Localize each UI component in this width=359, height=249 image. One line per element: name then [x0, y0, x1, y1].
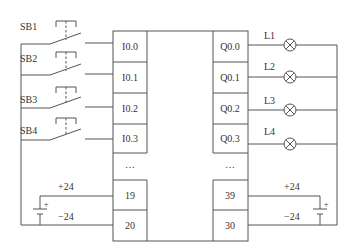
- terminal-i0-2: I0.2: [122, 103, 138, 114]
- input-battery-plus: +: [44, 200, 49, 209]
- terminal-20: 20: [125, 220, 135, 231]
- lamp-l3-label: L3: [264, 95, 275, 106]
- terminal-i0-1: I0.1: [122, 72, 138, 83]
- lamp-l4-icon: [248, 138, 337, 150]
- terminal-30: 30: [225, 220, 235, 231]
- terminal-q0-0: Q0.0: [220, 41, 240, 52]
- switch-sb1-label: SB1: [20, 21, 37, 32]
- terminal-i0-0: I0.0: [122, 41, 138, 52]
- input-minus-24-label: −24: [58, 211, 74, 222]
- terminal-39: 39: [225, 190, 235, 201]
- terminal-q0-1: Q0.1: [220, 72, 240, 83]
- lamp-l3-icon: [248, 104, 337, 116]
- output-ellipsis: …: [225, 159, 235, 170]
- output-minus-24-label: −24: [284, 211, 300, 222]
- output-battery-plus: +: [324, 200, 329, 209]
- plc-wiring-diagram: I0.0 I0.1 I0.2 I0.3 … 19 20 Q0.0 Q0.1 Q0…: [0, 0, 359, 249]
- switch-sb4-label: SB4: [20, 125, 37, 136]
- terminal-q0-2: Q0.2: [220, 103, 240, 114]
- input-ellipsis: …: [125, 159, 135, 170]
- lamp-l1-label: L1: [264, 30, 275, 41]
- lamp-l2-label: L2: [264, 61, 275, 72]
- output-plus-24-label: +24: [284, 181, 300, 192]
- lamp-l4-label: L4: [264, 126, 275, 137]
- input-plus-24-label: +24: [58, 181, 74, 192]
- terminal-i0-3: I0.3: [122, 133, 138, 144]
- switch-sb3-label: SB3: [20, 94, 37, 105]
- lamp-l1-icon: [248, 39, 337, 51]
- terminal-q0-3: Q0.3: [220, 133, 240, 144]
- lamp-l2-icon: [248, 71, 337, 83]
- switch-sb2-label: SB2: [20, 53, 37, 64]
- terminal-19: 19: [125, 190, 135, 201]
